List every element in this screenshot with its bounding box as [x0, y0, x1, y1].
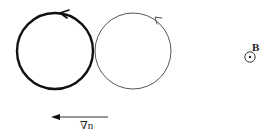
- left-orbit-circle: [17, 13, 93, 89]
- magnetic-field-indicator: B: [245, 41, 260, 62]
- diagram-canvas: B ∇n: [0, 0, 266, 138]
- b-field-label: B: [252, 41, 260, 53]
- gradient-label: ∇n: [80, 119, 94, 131]
- density-gradient: ∇n: [51, 114, 108, 131]
- right-orbit: [95, 13, 171, 89]
- b-field-dot-icon: [249, 56, 251, 58]
- gradient-arrow-head-icon: [51, 114, 60, 120]
- right-orbit-circle: [95, 13, 171, 89]
- left-orbit: [17, 10, 93, 89]
